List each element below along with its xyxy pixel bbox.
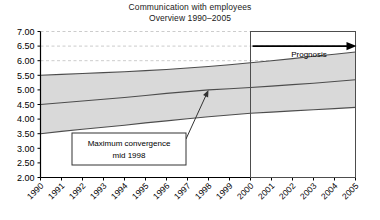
callout-line-1: Maximum convergence [88, 139, 171, 148]
y-tick-label: 5.50 [17, 71, 35, 81]
y-tick-label: 3.00 [17, 144, 35, 154]
x-tick-label: 1991 [46, 181, 67, 202]
x-tick-label: 2001 [256, 181, 277, 202]
x-tick-label: 1995 [130, 181, 151, 202]
y-tick-label: 5.00 [17, 85, 35, 95]
x-tick-label: 1993 [88, 181, 109, 202]
callout-box [72, 133, 186, 165]
band-area-group [41, 52, 356, 134]
y-tick-label: 2.50 [17, 158, 35, 168]
x-tick-label: 2003 [298, 181, 319, 202]
y-tick-label: 6.50 [17, 41, 35, 51]
x-tick-label: 1990 [25, 181, 46, 202]
x-tick-label: 1996 [151, 181, 172, 202]
y-tick-label: 4.00 [17, 114, 35, 124]
x-tick-label: 2004 [319, 181, 340, 202]
x-axis-ticks-group: 1990199119921993199419951996199719981999… [25, 178, 361, 202]
y-tick-label: 3.50 [17, 129, 35, 139]
y-axis-ticks-group: 7.006.506.005.505.004.504.003.503.002.50… [17, 27, 41, 183]
x-tick-label: 1998 [193, 181, 214, 202]
x-tick-label: 2000 [235, 181, 256, 202]
callout-line-2: mid 1998 [113, 151, 146, 160]
y-tick-label: 7.00 [17, 27, 35, 37]
prognosis-arrow-icon [253, 42, 357, 50]
y-tick-label: 6.00 [17, 56, 35, 66]
y-tick-label: 4.50 [17, 100, 35, 110]
x-tick-label: 1994 [109, 181, 130, 202]
chart-container: Communication with employees Overview 19… [0, 0, 380, 220]
x-tick-label: 1992 [67, 181, 88, 202]
chart-plot: 7.006.506.005.505.004.504.003.503.002.50… [0, 0, 380, 220]
x-tick-label: 2002 [277, 181, 298, 202]
x-tick-label: 1999 [214, 181, 235, 202]
x-tick-label: 1997 [172, 181, 193, 202]
x-tick-label: 2005 [340, 181, 361, 202]
y-tick-label: 2.00 [17, 173, 35, 183]
prognosis-label: Prognosis [291, 50, 327, 59]
